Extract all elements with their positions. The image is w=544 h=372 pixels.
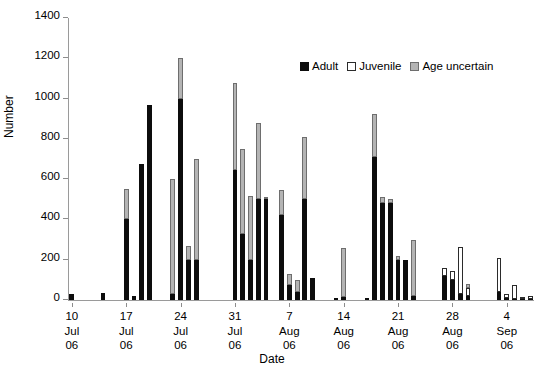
bar-group — [442, 268, 447, 300]
bar-segment-adult — [528, 299, 533, 300]
bar-segment-adult — [380, 203, 385, 300]
x-tick-mark — [507, 303, 508, 307]
bar-group — [295, 280, 300, 300]
bar-group — [341, 248, 346, 300]
bar-segment-adult — [302, 199, 307, 300]
x-tick-label: 14Aug06 — [314, 309, 374, 353]
bar-group — [450, 271, 455, 300]
bar-group — [170, 179, 175, 300]
bar-segment-adult — [442, 276, 447, 300]
bar-segment-adult — [450, 280, 455, 300]
bar-group — [139, 164, 144, 300]
x-tick-label: 28Aug06 — [422, 309, 482, 353]
bar-segment-adult — [396, 260, 401, 300]
bar-segment-age-uncertain — [341, 248, 346, 297]
bar-group — [194, 159, 199, 300]
x-tick-label: 31Jul06 — [205, 309, 265, 353]
x-tick-label: 24Jul06 — [151, 309, 211, 353]
x-tick-label: 17Jul06 — [96, 309, 156, 353]
bar-group — [388, 199, 393, 300]
bar-segment-adult — [520, 299, 525, 300]
bar-group — [233, 83, 238, 300]
bar-segment-juvenile — [466, 288, 471, 296]
bar-group — [310, 278, 315, 300]
bar-segment-adult — [295, 292, 300, 300]
x-tick-label: 7Aug06 — [259, 309, 319, 353]
y-tick-label: 200 — [0, 252, 60, 263]
x-tick-mark — [126, 303, 127, 307]
y-tick-label: 1400 — [0, 10, 60, 21]
bar-segment-age-uncertain — [233, 83, 238, 170]
bar-segment-adult — [334, 298, 339, 300]
bar-segment-adult — [365, 298, 370, 300]
bar-segment-adult — [240, 234, 245, 300]
bar-segment-adult — [186, 260, 191, 300]
bar-group — [69, 294, 74, 300]
bar-segment-age-uncertain — [240, 149, 245, 234]
x-tick-label: 4Sep06 — [477, 309, 537, 353]
bar-segment-adult — [458, 294, 463, 300]
legend-item-juvenile: Juvenile — [347, 60, 401, 72]
bar-segment-juvenile — [450, 271, 455, 280]
legend-item-age-uncertain: Age uncertain — [410, 60, 493, 72]
bar-segment-adult — [69, 294, 74, 300]
bar-segment-adult — [403, 260, 408, 300]
bar-group — [334, 298, 339, 300]
bar-segment-adult — [248, 260, 253, 300]
y-tick-label: 1200 — [0, 50, 60, 61]
bar-group — [101, 293, 106, 300]
x-tick-mark — [72, 303, 73, 307]
bar-group — [520, 297, 525, 300]
bar-segment-adult — [132, 296, 137, 300]
x-tick-mark — [452, 303, 453, 307]
bar-segment-adult — [388, 203, 393, 300]
bar-segment-adult — [372, 157, 377, 300]
bar-group — [287, 274, 292, 300]
bar-segment-adult — [124, 219, 129, 300]
bar-group — [380, 197, 385, 300]
bar-segment-age-uncertain — [248, 196, 253, 259]
bar-segment-age-uncertain — [186, 246, 191, 260]
bar-segment-age-uncertain — [178, 58, 183, 98]
bar-group — [365, 298, 370, 300]
bar-segment-adult — [178, 99, 183, 300]
bar-segment-age-uncertain — [411, 240, 416, 296]
bar-group — [186, 246, 191, 300]
bar-segment-adult — [256, 199, 261, 300]
bar-segment-age-uncertain — [295, 280, 300, 292]
bar-segment-adult — [194, 260, 199, 300]
bar-segment-adult — [147, 105, 152, 300]
bar-group — [466, 284, 471, 300]
bar-segment-juvenile — [512, 285, 517, 299]
bar-segment-adult — [264, 199, 269, 300]
x-tick-mark — [398, 303, 399, 307]
bar-segment-age-uncertain — [170, 179, 175, 294]
bar-segment-adult — [101, 293, 106, 300]
y-tick-label: 600 — [0, 171, 60, 182]
bar-group — [147, 105, 152, 300]
y-tick-label: 1000 — [0, 91, 60, 102]
bar-group — [124, 189, 129, 300]
x-tick-mark — [344, 303, 345, 307]
y-tick-label: 0 — [0, 292, 60, 303]
bar-group — [504, 294, 509, 300]
bar-group — [248, 196, 253, 300]
bar-group — [458, 247, 463, 300]
bar-group — [256, 123, 261, 300]
chart-legend: Adult Juvenile Age uncertain — [300, 60, 502, 72]
bar-group — [497, 258, 502, 300]
legend-label-age-uncertain: Age uncertain — [422, 60, 493, 72]
bar-segment-adult — [466, 296, 471, 300]
bar-segment-adult — [497, 292, 502, 300]
bar-segment-age-uncertain — [279, 190, 284, 215]
x-tick-mark — [181, 303, 182, 307]
x-axis-line — [68, 300, 534, 301]
bar-group — [302, 137, 307, 300]
x-axis-title: Date — [0, 352, 544, 366]
y-tick-label: 800 — [0, 131, 60, 142]
bar-segment-juvenile — [458, 247, 463, 294]
bar-group — [528, 296, 533, 300]
bar-segment-adult — [139, 164, 144, 300]
bar-group — [178, 58, 183, 300]
bar-segment-age-uncertain — [287, 274, 292, 285]
